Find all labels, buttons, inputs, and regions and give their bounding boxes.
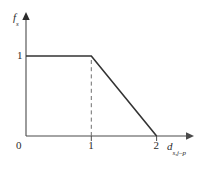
x-axis-title: ds,j–p	[167, 141, 186, 155]
y-axis	[22, 12, 29, 136]
membership-function-chart: fs ds,j–p 0 1 1 2	[0, 0, 204, 169]
tick-label-x-1: 1	[88, 140, 94, 151]
x-axis-title-subscript: s,j–p	[173, 149, 186, 157]
y-axis-arrowhead-icon	[22, 12, 29, 20]
x-axis	[26, 132, 194, 139]
tick-label-origin: 0	[16, 140, 22, 151]
x-axis-arrowhead-icon	[186, 132, 194, 139]
y-axis-title: fs	[13, 12, 19, 26]
tick-label-y-1: 1	[17, 50, 23, 61]
tick-marks	[91, 136, 156, 141]
y-axis-title-subscript: s	[16, 20, 19, 28]
tick-label-x-2: 2	[154, 140, 160, 151]
x-axis-title-base: d	[167, 140, 173, 152]
